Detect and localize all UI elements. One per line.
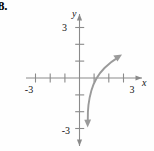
y-axis-arrow-down-icon	[77, 140, 82, 147]
coordinate-plane: y x 3 -3 -3 3	[0, 0, 154, 151]
curve-arrow-down-icon	[84, 120, 91, 128]
x-axis-label: x	[141, 77, 147, 88]
x-tick-label-3: 3	[130, 84, 135, 95]
y-tick-label-negative-3: -3	[62, 125, 70, 136]
y-tick-label-3: 3	[62, 22, 67, 33]
x-tick-label-negative-3: -3	[25, 84, 33, 95]
math-figure: 8.	[0, 0, 154, 151]
y-axis-arrow-up-icon	[77, 14, 82, 21]
y-axis-label: y	[71, 8, 77, 19]
logarithmic-curve	[88, 58, 118, 121]
